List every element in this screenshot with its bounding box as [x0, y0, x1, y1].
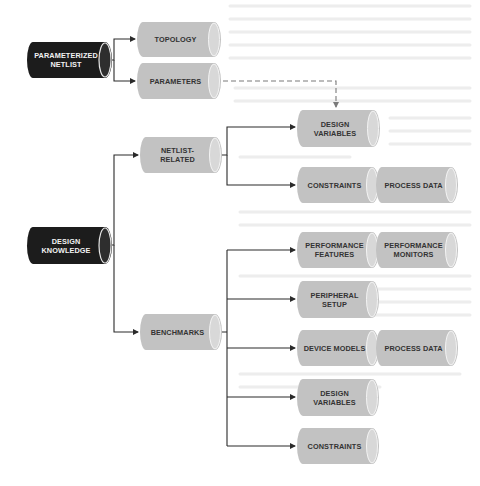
node-design-variables-2: DESIGN VARIABLES [297, 379, 379, 416]
edge-netlist-parameters [114, 60, 135, 81]
node-label: PROCESS DATA [376, 330, 451, 366]
edge-bench-trunk [222, 250, 227, 446]
node-constraints-1: CONSTRAINTS [297, 167, 379, 203]
node-design-knowledge: DESIGN KNOWLEDGE [27, 227, 112, 264]
edge-netlistrel-designvars [222, 127, 295, 155]
node-label: PERFORMANCE MONITORS [376, 232, 451, 268]
node-label: DESIGN VARIABLES [297, 110, 373, 147]
node-label: NETLIST- RELATED [140, 137, 215, 173]
node-label: DESIGN KNOWLEDGE [27, 227, 105, 264]
node-device-models: DEVICE MODELS [297, 330, 379, 366]
node-parameters: PARAMETERS [137, 63, 221, 99]
node-process-data-1: PROCESS DATA [376, 167, 458, 203]
node-netlist-related: NETLIST- RELATED [140, 137, 222, 173]
node-label: DESIGN VARIABLES [297, 379, 372, 416]
node-label: PROCESS DATA [376, 167, 451, 203]
edge-netlist-topology [112, 39, 135, 60]
node-performance-features: PERFORMANCE FEATURES [297, 232, 379, 268]
node-label: PERFORMANCE FEATURES [297, 232, 372, 268]
edge-parameters-designvars-dashed [223, 81, 336, 107]
node-label: PERIPHERAL SETUP [297, 281, 372, 318]
node-performance-monitors: PERFORMANCE MONITORS [376, 232, 458, 268]
node-design-variables-1: DESIGN VARIABLES [297, 110, 380, 147]
edge-netlistrel-constraints [227, 155, 295, 185]
node-label: DEVICE MODELS [297, 330, 372, 366]
edge-knowledge-benchmarks [114, 245, 138, 332]
node-topology: TOPOLOGY [137, 22, 221, 57]
node-label: BENCHMARKS [140, 314, 215, 350]
node-label: PARAMETERIZED NETLIST [27, 42, 105, 78]
node-label: TOPOLOGY [137, 22, 214, 57]
node-label: CONSTRAINTS [297, 167, 372, 203]
node-process-data-2: PROCESS DATA [376, 330, 458, 366]
design-knowledge-diagram: PARAMETERIZED NETLIST DESIGN KNOWLEDGE T… [0, 0, 480, 486]
node-label: CONSTRAINTS [297, 428, 372, 464]
node-label: PARAMETERS [137, 63, 214, 99]
node-parameterized-netlist: PARAMETERIZED NETLIST [27, 42, 112, 78]
node-constraints-2: CONSTRAINTS [297, 428, 379, 464]
node-benchmarks: BENCHMARKS [140, 314, 222, 350]
edge-knowledge-netlist-related [112, 155, 138, 245]
node-peripheral-setup: PERIPHERAL SETUP [297, 281, 379, 318]
